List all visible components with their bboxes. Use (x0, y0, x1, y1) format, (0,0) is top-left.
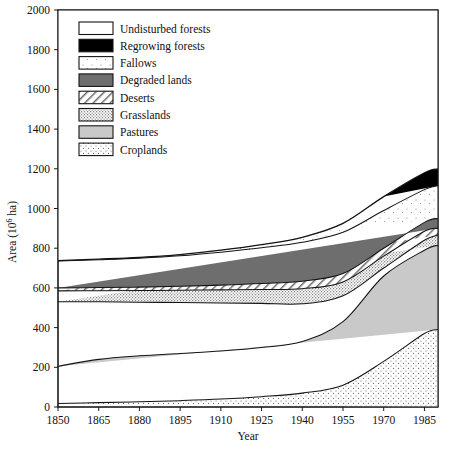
y-tick-label: 400 (33, 322, 51, 334)
legend-item-degraded-lands: Degraded lands (79, 74, 192, 88)
legend-swatch-solid-black (79, 39, 113, 52)
svg-text:Area (106 ha): Area (106 ha) (5, 201, 19, 263)
land-use-stacked-area-chart: 0200400600800100012001400160018002000 18… (0, 0, 459, 449)
y-tick-label: 1600 (27, 83, 50, 95)
legend-label: Pastures (120, 126, 159, 138)
legend-swatch-solid-white (79, 22, 113, 35)
legend-label: Undisturbed forests (120, 23, 211, 35)
x-tick-label: 1880 (128, 414, 151, 426)
legend-label: Degraded lands (120, 74, 192, 87)
legend-swatch-diagonal-hatch (79, 91, 113, 104)
chart-container: 0200400600800100012001400160018002000 18… (0, 0, 459, 449)
x-tick-label: 1850 (47, 414, 70, 426)
legend-label: Deserts (120, 92, 155, 104)
y-tick-label: 1200 (27, 163, 50, 175)
legend-label: Fallows (120, 57, 157, 69)
y-tick-label: 1000 (27, 203, 50, 215)
x-tick-label: 1925 (250, 414, 273, 426)
y-tick-label: 200 (33, 361, 51, 373)
x-tick-label: 1985 (413, 414, 436, 426)
legend-item-regrowing-forests: Regrowing forests (79, 39, 205, 53)
legend-item-grasslands: Grasslands (79, 109, 171, 122)
x-tick-label: 1970 (372, 414, 395, 426)
y-tick-label: 800 (33, 242, 51, 254)
x-tick-label: 1955 (332, 414, 355, 426)
legend-swatch-solid-light-gray (79, 126, 113, 139)
y-tick-label: 0 (44, 401, 50, 413)
legend-label: Croplands (120, 144, 168, 157)
y-tick-label: 1800 (27, 44, 50, 56)
legend-item-undisturbed-forests: Undisturbed forests (79, 22, 211, 35)
y-axis-title: Area (106 ha) (5, 201, 19, 263)
legend-swatch-stipple-sparse (79, 57, 113, 70)
x-tick-label: 1910 (209, 414, 232, 426)
y-axis-title-tail: ha) (6, 201, 19, 219)
legend-label: Grasslands (120, 109, 171, 121)
legend-item-croplands: Croplands (79, 143, 168, 157)
x-tick-label: 1895 (169, 414, 192, 426)
legend-label: Regrowing forests (120, 40, 205, 53)
y-tick-label: 600 (33, 282, 51, 294)
y-tick-label: 1400 (27, 123, 50, 135)
x-tick-label: 1865 (87, 414, 110, 426)
legend-swatch-solid-dark-gray (79, 74, 113, 87)
x-axis-title: Year (237, 430, 258, 442)
x-tick-label: 1940 (291, 414, 314, 426)
legend-swatch-stipple-medium (79, 143, 113, 156)
legend-swatch-stipple-dense (79, 109, 113, 122)
y-tick-label: 2000 (27, 4, 50, 16)
y-axis-title-base: Area (10 (6, 222, 19, 263)
